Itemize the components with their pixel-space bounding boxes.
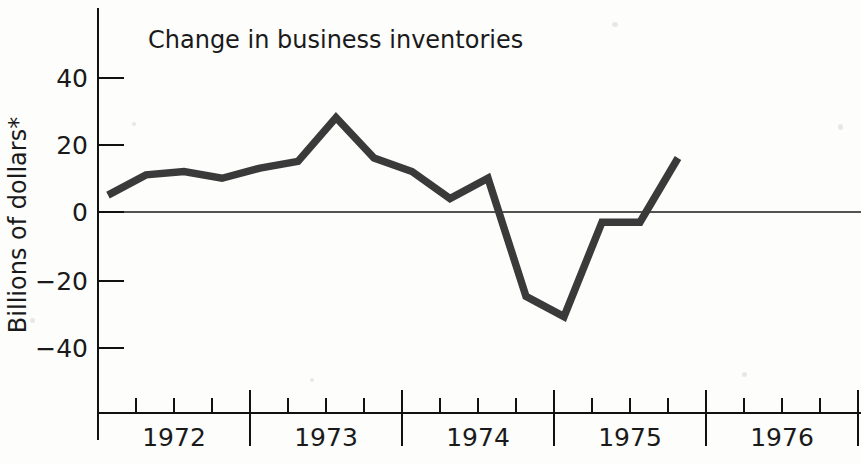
paper-speck — [30, 318, 35, 323]
y-tick-label-minus-40: −40 — [35, 334, 88, 363]
line-chart: 40 20 0 −20 −40 Billions of dollars* Cha… — [0, 0, 861, 464]
chart-container: 40 20 0 −20 −40 Billions of dollars* Cha… — [0, 0, 861, 464]
x-tick-label-1976: 1976 — [750, 423, 814, 452]
y-tick-label-40: 40 — [56, 64, 88, 93]
data-series-line — [108, 118, 678, 317]
y-tick-label-minus-20: −20 — [35, 267, 88, 296]
paper-speck — [310, 378, 314, 382]
x-tick-label-1974: 1974 — [446, 423, 510, 452]
y-tick-label-20: 20 — [56, 131, 88, 160]
y-tick-label-0: 0 — [72, 198, 88, 227]
y-axis-caption: Billions of dollars* — [4, 117, 32, 333]
paper-speck — [612, 22, 618, 27]
paper-speck — [838, 124, 843, 130]
x-tick-label-1972: 1972 — [142, 423, 206, 452]
paper-speck — [132, 122, 136, 126]
paper-speck — [742, 372, 747, 377]
x-tick-label-1973: 1973 — [294, 423, 358, 452]
chart-title: Change in business inventories — [148, 26, 523, 54]
x-tick-label-1975: 1975 — [598, 423, 662, 452]
